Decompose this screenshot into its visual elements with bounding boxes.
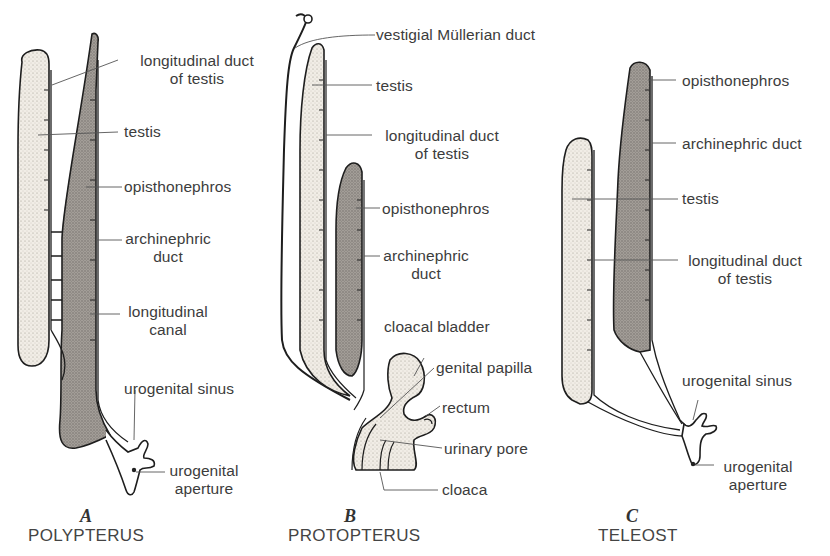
panel-b-letter: B [344, 506, 356, 527]
label-c-testis: testis [682, 190, 719, 208]
label-line: urogenital [718, 458, 798, 476]
label-line: longitudinal duct [678, 252, 812, 270]
panel-b-name: PROTOPTERUS [288, 526, 420, 546]
label-b-opisthonephros: opisthonephros [382, 200, 489, 218]
label-a-longitudinal-duct: longitudinal duct of testis [122, 52, 272, 88]
label-a-longitudinal-canal: longitudinal canal [120, 303, 216, 339]
label-a-urogenital-aperture: urogenital aperture [164, 462, 244, 498]
label-line: of testis [122, 70, 272, 88]
label-a-opisthonephros: opisthonephros [124, 178, 231, 196]
opisthonephros-b [336, 163, 362, 376]
label-line: longitudinal duct [122, 52, 272, 70]
label-a-testis: testis [124, 123, 161, 141]
label-line: canal [120, 321, 216, 339]
label-b-urinary-pore: urinary pore [444, 440, 528, 458]
label-b-rectum: rectum [442, 399, 490, 417]
label-b-archinephric-duct: archinephric duct [378, 247, 474, 283]
label-b-testis: testis [376, 77, 413, 95]
label-b-longitudinal-duct: longitudinal duct of testis [374, 127, 510, 163]
opisthonephros-a [60, 33, 110, 448]
label-line: aperture [718, 476, 798, 494]
label-line: duct [120, 248, 216, 266]
panel-c-letter: C [626, 506, 638, 527]
testis-c [562, 138, 592, 404]
panel-a-name: POLYPTERUS [28, 526, 144, 546]
label-line: archinephric [120, 230, 216, 248]
label-b-genital-papilla: genital papilla [436, 359, 532, 377]
label-line: archinephric [378, 247, 474, 265]
panel-a-letter: A [80, 506, 92, 527]
label-b-cloaca: cloaca [442, 481, 487, 499]
label-line: longitudinal [120, 303, 216, 321]
label-a-archinephric-duct: archinephric duct [120, 230, 216, 266]
label-c-urogenital-sinus: urogenital sinus [682, 372, 792, 390]
label-line: duct [378, 265, 474, 283]
label-c-longitudinal-duct: longitudinal duct of testis [678, 252, 812, 288]
label-line: aperture [164, 480, 244, 498]
label-c-archinephric-duct: archinephric duct [682, 135, 802, 153]
label-c-urogenital-aperture: urogenital aperture [718, 458, 798, 494]
panel-c-name: TELEOST [598, 526, 678, 546]
label-line: of testis [678, 270, 812, 288]
cloacal-bladder [354, 353, 436, 470]
testis-a [18, 50, 49, 366]
label-b-cloacal-bladder: cloacal bladder [384, 318, 490, 336]
label-c-opisthonephros: opisthonephros [682, 72, 789, 90]
opisthonephros-c [613, 62, 650, 352]
label-line: longitudinal duct [374, 127, 510, 145]
label-a-urogenital-sinus: urogenital sinus [124, 380, 234, 398]
label-line: urogenital [164, 462, 244, 480]
label-line: of testis [374, 145, 510, 163]
label-b-mullerian-duct: vestigial Müllerian duct [376, 26, 535, 44]
